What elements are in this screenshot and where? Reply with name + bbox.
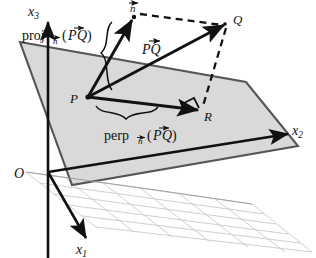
axis-label-x1: x1 — [75, 242, 87, 258]
oblique-plane — [20, 42, 298, 185]
figure-canvas: x3 x2 x1 O P Q R n PQ — [0, 0, 316, 258]
pq-vector-label: PQ — [141, 41, 161, 57]
svg-text:(: ( — [147, 128, 152, 144]
normal-vector-label: n — [129, 2, 138, 14]
axis-label-x3: x3 — [27, 4, 39, 21]
point-Q-dot — [223, 22, 227, 26]
svg-text:perp: perp — [104, 128, 129, 143]
ground-grid — [26, 172, 312, 252]
point-n-dot — [132, 15, 136, 19]
svg-text:(: ( — [62, 28, 67, 44]
point-label-P: P — [69, 91, 78, 106]
origin-label: O — [14, 166, 24, 181]
axis-label-x2: x2 — [291, 123, 303, 140]
svg-text:Q: Q — [77, 28, 87, 43]
svg-text:proj: proj — [22, 28, 45, 43]
point-label-R: R — [203, 109, 212, 124]
svg-text:P: P — [152, 128, 162, 143]
dashed-n-to-q — [140, 14, 222, 25]
point-P-dot — [85, 94, 90, 99]
point-label-Q: Q — [233, 12, 243, 27]
svg-text:n: n — [130, 2, 136, 14]
svg-text:Q: Q — [162, 128, 172, 143]
svg-text:P: P — [67, 28, 77, 43]
vector-projection-figure: x3 x2 x1 O P Q R n PQ — [0, 0, 316, 258]
svg-text:): ) — [87, 28, 92, 44]
svg-text:): ) — [172, 128, 177, 144]
svg-text:PQ: PQ — [141, 42, 161, 57]
